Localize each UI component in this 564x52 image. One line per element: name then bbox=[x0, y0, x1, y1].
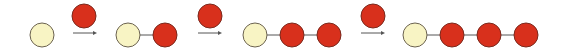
transition-1 bbox=[72, 4, 97, 35]
arrow-head-icon bbox=[381, 31, 385, 35]
added-node bbox=[153, 23, 177, 47]
transition-2 bbox=[198, 4, 222, 35]
arrow-head-icon bbox=[93, 31, 97, 35]
added-node bbox=[280, 23, 304, 47]
added-node bbox=[440, 23, 464, 47]
transition-3 bbox=[361, 4, 385, 35]
added-node bbox=[514, 23, 538, 47]
incoming-node bbox=[361, 4, 385, 28]
stage-1 bbox=[30, 23, 54, 47]
arrow-head-icon bbox=[218, 31, 222, 35]
chain-growth-diagram bbox=[0, 0, 564, 52]
added-node bbox=[317, 23, 341, 47]
added-node bbox=[477, 23, 501, 47]
stage-3 bbox=[243, 23, 341, 47]
initial-node bbox=[403, 23, 427, 47]
initial-node bbox=[243, 23, 267, 47]
stage-2 bbox=[116, 23, 177, 47]
stage-4 bbox=[403, 23, 538, 47]
incoming-node bbox=[198, 4, 222, 28]
initial-node bbox=[30, 23, 54, 47]
initial-node bbox=[116, 23, 140, 47]
incoming-node bbox=[72, 4, 96, 28]
